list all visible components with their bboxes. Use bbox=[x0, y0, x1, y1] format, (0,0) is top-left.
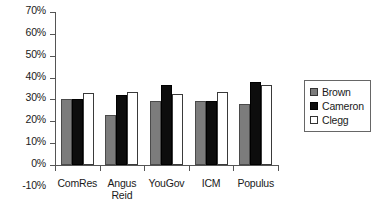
bar-group-bars bbox=[189, 12, 234, 165]
bar-group-bars bbox=[233, 12, 278, 165]
bar-clegg bbox=[83, 93, 94, 165]
y-tick-label: 70% bbox=[26, 5, 46, 16]
bar-cameron bbox=[72, 99, 83, 165]
legend-item-cameron: Cameron bbox=[310, 99, 364, 113]
bar-brown bbox=[61, 99, 72, 165]
bar-brown bbox=[195, 101, 206, 165]
y-tick-label: 50% bbox=[26, 49, 46, 60]
legend-item-clegg: Clegg bbox=[310, 113, 364, 127]
legend-item-brown: Brown bbox=[310, 85, 364, 99]
y-tick-label: -10% bbox=[22, 180, 46, 191]
x-axis-label-yougov: YouGov bbox=[144, 177, 189, 189]
legend-label-cameron: Cameron bbox=[322, 100, 364, 112]
legend-swatch-cameron-icon bbox=[310, 102, 318, 110]
x-axis-baseline bbox=[55, 165, 278, 166]
x-axis-label-populus: Populus bbox=[233, 177, 278, 189]
bar-cameron bbox=[161, 85, 172, 165]
bar-group bbox=[144, 12, 189, 165]
legend-label-clegg: Clegg bbox=[322, 114, 348, 126]
bar-cameron bbox=[250, 82, 261, 165]
bar-brown bbox=[105, 115, 116, 165]
y-tick-label: 20% bbox=[26, 114, 46, 125]
y-tick-label: 30% bbox=[26, 92, 46, 103]
y-tick-label: 40% bbox=[26, 71, 46, 82]
bar-brown bbox=[239, 104, 250, 165]
x-axis-label-comres: ComRes bbox=[55, 177, 100, 189]
bar-clegg bbox=[172, 94, 183, 165]
x-axis-label-angus-reid: Angus Reid bbox=[100, 177, 145, 201]
bar-group-bars bbox=[55, 12, 100, 165]
y-tick-label: 10% bbox=[26, 136, 46, 147]
bar-group bbox=[55, 12, 100, 165]
bar-clegg bbox=[127, 92, 138, 165]
category-separator-tick bbox=[278, 165, 279, 171]
chart-legend: Brown Cameron Clegg bbox=[304, 80, 371, 132]
category-separator-tick bbox=[189, 165, 190, 171]
bar-clegg bbox=[217, 92, 228, 165]
bar-group bbox=[100, 12, 145, 165]
bar-group bbox=[233, 12, 278, 165]
y-tick-label: 0% bbox=[31, 158, 46, 169]
category-separator-tick bbox=[55, 165, 56, 171]
bar-cameron bbox=[206, 101, 217, 165]
category-separator-tick bbox=[144, 165, 145, 171]
plot-area bbox=[55, 12, 278, 165]
x-axis-label-icm: ICM bbox=[189, 177, 234, 189]
bar-cameron bbox=[116, 95, 127, 165]
bar-brown bbox=[150, 101, 161, 165]
category-separator-tick bbox=[233, 165, 234, 171]
y-tick-label: 60% bbox=[26, 27, 46, 38]
legend-swatch-brown-icon bbox=[310, 88, 318, 96]
bar-group-bars bbox=[144, 12, 189, 165]
category-separator-tick bbox=[100, 165, 101, 171]
bar-group bbox=[189, 12, 234, 165]
legend-label-brown: Brown bbox=[322, 86, 351, 98]
bar-chart: 70%60%50%40%30%20%10%0%-10% ComResAngus … bbox=[0, 0, 389, 218]
bar-clegg bbox=[261, 85, 272, 165]
bar-group-bars bbox=[100, 12, 145, 165]
legend-swatch-clegg-icon bbox=[310, 116, 318, 124]
